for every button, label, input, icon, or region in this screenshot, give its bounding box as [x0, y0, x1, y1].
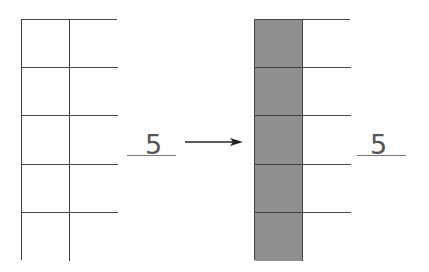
left-label: 5	[145, 131, 162, 158]
grid-cell-shaded	[255, 116, 303, 164]
grid-cell	[70, 165, 118, 213]
right-grid	[254, 19, 350, 260]
grid-cell	[70, 20, 118, 68]
grid-cell	[70, 213, 118, 261]
arrow-right-icon	[185, 137, 245, 147]
left-grid	[21, 19, 117, 260]
grid-cell-shaded	[255, 68, 303, 116]
grid-cell	[70, 116, 118, 164]
grid-cell-shaded	[255, 165, 303, 213]
grid-cell	[70, 68, 118, 116]
right-label-underline	[357, 155, 406, 156]
grid-cell	[22, 116, 70, 164]
grid-cell	[22, 20, 70, 68]
grid-cell-shaded	[255, 20, 303, 68]
grid-cell	[303, 20, 351, 68]
grid-cell	[22, 165, 70, 213]
grid-cell-shaded	[255, 213, 303, 261]
grid-cell	[22, 68, 70, 116]
grid-cell	[303, 116, 351, 164]
grid-cell	[303, 68, 351, 116]
right-label: 5	[370, 131, 387, 158]
grid-cell	[303, 165, 351, 213]
grid-cell	[22, 213, 70, 261]
left-label-underline	[127, 155, 176, 156]
grid-cell	[303, 213, 351, 261]
